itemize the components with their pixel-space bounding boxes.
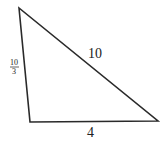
left-side-fraction-label: 10 3 — [10, 58, 19, 76]
triangle-diagram: 10 10 3 4 — [0, 0, 168, 144]
triangle — [19, 8, 158, 122]
hypotenuse-label: 10 — [88, 46, 102, 61]
fraction-numerator: 10 — [10, 58, 18, 67]
bottom-side-label: 4 — [87, 125, 94, 140]
fraction-denominator: 3 — [12, 67, 16, 76]
